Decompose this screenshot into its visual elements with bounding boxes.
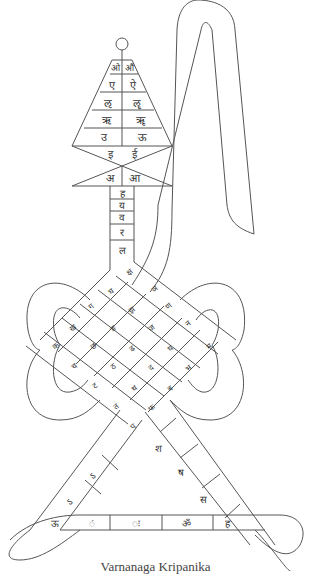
loop-right-outer <box>170 283 245 420</box>
neck-cell: य <box>119 200 125 211</box>
knot-cell: भ <box>183 363 193 374</box>
head-cell: ऌ <box>104 97 112 110</box>
base-cell: ः <box>132 518 141 529</box>
head-cell: औ <box>125 62 135 73</box>
base-cell: ऊ <box>51 518 59 529</box>
head-base-cell: आ <box>129 172 141 185</box>
knot-cell: त <box>112 401 122 411</box>
knot-cell: द <box>147 363 157 373</box>
head-cell: ऋ <box>102 114 112 127</box>
head-cell: ओ <box>111 62 121 73</box>
knot-cell: ण <box>163 301 173 312</box>
knot-cell: ढ <box>128 343 138 353</box>
head-cell: ॠ <box>136 114 146 127</box>
head-cell: ॡ <box>133 97 142 110</box>
head-base-cell: अ <box>106 172 115 185</box>
base-cell: ं <box>89 518 95 529</box>
tail-left-cell: ऽ <box>87 469 98 481</box>
knot-cell: क्ष <box>124 267 134 278</box>
head-cell: इ <box>108 148 114 161</box>
tail-right-cell: श <box>155 443 162 454</box>
knot-cell: ट <box>91 381 101 391</box>
base-cell: ॐ <box>182 518 191 529</box>
knot-cell: ध <box>166 342 176 353</box>
neck-cell: ह <box>120 188 126 199</box>
knot-cell: ञ <box>149 283 160 294</box>
loop-left-inner <box>53 308 88 392</box>
knot-cell: ज <box>146 322 157 333</box>
neck-cell: र <box>120 227 125 238</box>
head-circle <box>116 38 128 50</box>
knot-cell: झ <box>126 304 137 315</box>
neck-cell: व <box>119 212 125 223</box>
tail-left-cell: ऽ <box>64 495 75 507</box>
varnanaga-diagram: ओ औ ए ऐ ऌ ॡ ऋ ॠ उ ऊ इ ई अ आ ह य व र ल क्… <box>0 0 311 585</box>
head-cell: ऊ <box>138 131 147 144</box>
knot-cell: ठ <box>109 361 119 371</box>
head-cell: ऐ <box>130 79 137 92</box>
tail-right-cell: ष <box>178 467 184 478</box>
figure-caption: Varnanaga Kripanika <box>0 559 311 575</box>
left-leg-outer <box>30 410 120 530</box>
left-leg-inner <box>60 420 142 530</box>
serpent-tail-inner <box>132 23 254 286</box>
head-cell: उ <box>101 131 108 144</box>
knot-cell: न <box>184 319 194 329</box>
tail-right-cell: स <box>200 494 207 505</box>
knot-cell: ब <box>166 383 176 393</box>
neck-cell: ल <box>119 245 126 256</box>
knot-cell: प <box>129 421 139 431</box>
head-cell: ए <box>109 79 116 92</box>
head-cell: ई <box>132 148 138 161</box>
